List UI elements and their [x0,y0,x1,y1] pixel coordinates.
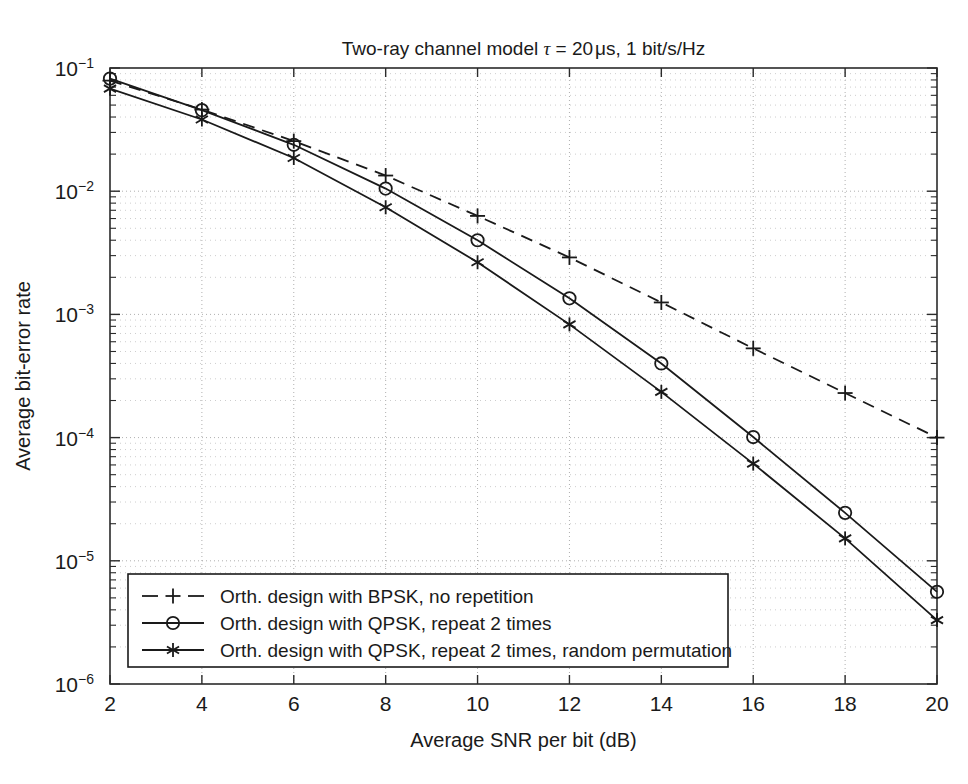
x-axis-tick-label: 16 [742,692,765,715]
x-axis-tick-label: 8 [380,692,392,715]
chart-figure: 10−110−210−310−410−510−62468101214161820… [0,0,968,784]
bit-error-rate-chart: 10−110−210−310−410−510−62468101214161820… [0,0,968,784]
legend-item[interactable]: Orth. design with QPSK, repeat 2 times, … [142,640,732,661]
x-axis-tick-label: 10 [466,692,489,715]
x-axis-tick-label: 20 [925,692,948,715]
x-axis-tick-label: 2 [104,692,116,715]
chart-title: Two-ray channel model τ = 20μs, 1 bit/s/… [342,38,706,59]
x-axis-tick-label: 4 [196,692,208,715]
legend-layer[interactable]: Orth. design with BPSK, no repetitionOrt… [128,574,732,667]
y-axis-title: Average bit-error rate [12,281,34,471]
legend-label: Orth. design with QPSK, repeat 2 times [220,613,552,634]
legend-label: Orth. design with BPSK, no repetition [220,586,534,607]
x-axis-title: Average SNR per bit (dB) [410,729,636,751]
x-axis-tick-label: 6 [288,692,300,715]
x-axis-tick-label: 12 [558,692,581,715]
x-axis-tick-label: 14 [650,692,674,715]
x-axis-tick-label: 18 [833,692,856,715]
legend-label: Orth. design with QPSK, repeat 2 times, … [220,640,732,661]
